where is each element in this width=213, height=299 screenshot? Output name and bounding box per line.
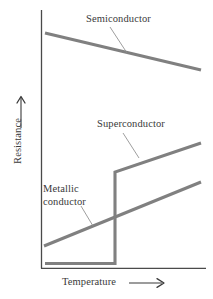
resistance-vs-temperature-figure: Semiconductor Superconductor Metallic co…: [0, 0, 213, 299]
superconductor-leader-line: [123, 133, 139, 158]
semiconductor-curve: [45, 33, 201, 70]
x-axis-label: Temperature: [62, 276, 116, 288]
metallic-conductor-leader-line: [81, 206, 93, 226]
metallic-conductor-label: Metallic conductor: [43, 183, 103, 208]
superconductor-label: Superconductor: [97, 118, 165, 130]
x-axis-arrow-icon: [129, 279, 164, 288]
y-axis-label: Resistance: [12, 106, 24, 176]
plot-canvas: [0, 0, 213, 299]
semiconductor-label: Semiconductor: [86, 13, 151, 25]
